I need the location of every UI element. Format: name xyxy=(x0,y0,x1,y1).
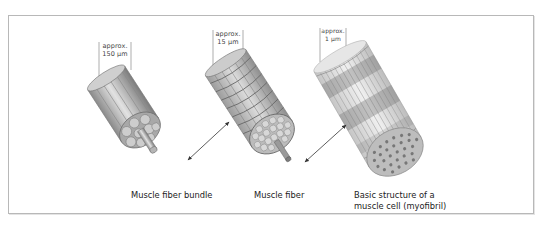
caption-myofibril-line1: Basic structure of a xyxy=(354,190,446,201)
caption-myofibril-line2: muscle cell (myofibril) xyxy=(354,201,446,212)
caption-muscle-fiber-bundle: Muscle fiber bundle xyxy=(131,190,212,201)
arrow-bundle-to-fiber xyxy=(188,122,229,160)
caption-muscle-fiber: Muscle fiber xyxy=(254,190,304,201)
scale-label-fiber-line1: approx. xyxy=(214,30,242,38)
scale-label-myofibril-line2: 1 µm xyxy=(319,35,347,43)
muscle-fiber-bundle-illustration xyxy=(85,42,174,165)
scale-label-myofibril: approx. 1 µm xyxy=(319,27,347,43)
scale-label-bundle-line2: 150 µm xyxy=(100,50,130,58)
scale-label-fiber: approx. 15 µm xyxy=(214,30,242,46)
scale-label-bundle: approx. 150 µm xyxy=(100,42,130,58)
arrow-fiber-to-myofibril xyxy=(305,125,346,162)
muscle-fiber-illustration xyxy=(202,30,309,174)
scale-label-fiber-line2: 15 µm xyxy=(214,38,242,46)
scale-label-myofibril-line1: approx. xyxy=(319,27,347,35)
caption-myofibril: Basic structure of a muscle cell (myofib… xyxy=(354,190,446,212)
myofibril-illustration xyxy=(311,28,432,186)
scale-label-bundle-line1: approx. xyxy=(100,42,130,50)
